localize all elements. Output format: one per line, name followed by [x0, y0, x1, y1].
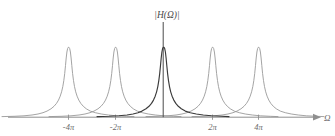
tick-label-minus-2pi: -2π — [110, 122, 122, 132]
plot-title-magnitude-response: |H(Ω)| — [154, 10, 179, 21]
x-axis-arrowhead — [313, 114, 321, 121]
plot-canvas: |H(Ω)| -4π -2π 2π 4π Ω — [0, 0, 335, 136]
tick-label-minus-4pi: -4π — [63, 122, 75, 132]
x-axis-label-omega: Ω — [324, 113, 331, 123]
tick-label-plus-2pi: 2π — [208, 122, 217, 132]
tick-label-plus-4pi: 4π — [254, 122, 263, 132]
frequency-response-figure: |H(Ω)| -4π -2π 2π 4π Ω — [0, 0, 335, 136]
replica-curve-plus-4pi — [192, 47, 324, 116]
replica-curve-minus-4pi — [2, 47, 134, 116]
